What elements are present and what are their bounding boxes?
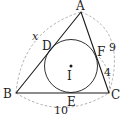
label-D: D (42, 39, 52, 53)
label-I: I (67, 69, 72, 83)
length-label-9: 9 (109, 41, 116, 54)
label-F: F (97, 45, 105, 59)
label-A: A (75, 0, 85, 13)
label-C: C (111, 88, 120, 102)
triangle-ABC (16, 12, 109, 93)
incenter-dot (70, 65, 73, 68)
label-E: E (67, 95, 76, 109)
label-B: B (3, 87, 12, 101)
length-label-x: x (32, 30, 39, 43)
length-label-4: 4 (104, 66, 111, 79)
length-label-10: 10 (54, 104, 68, 117)
triangle-incircle-diagram: A B C D E F I x 9 4 10 (0, 0, 129, 121)
